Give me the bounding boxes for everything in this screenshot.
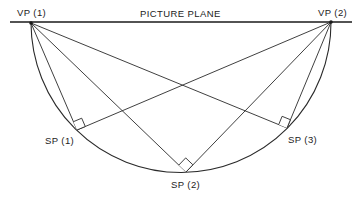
vanishing-point-1-dot — [29, 21, 33, 25]
vanishing-point-1-label: VP (1) — [17, 7, 46, 18]
vanishing-point-2-dot — [329, 20, 333, 24]
sight-line-vp2-sp2 — [186, 22, 331, 172]
sight-line-vp1-sp2 — [31, 23, 186, 172]
picture-plane-label: PICTURE PLANE — [140, 8, 221, 19]
station-point-2-label: SP (2) — [171, 179, 200, 190]
right-angle-marker-sp2 — [179, 158, 193, 172]
perspective-diagram: VP (1) PICTURE PLANE VP (2) SP (1) SP (2… — [0, 0, 358, 197]
station-point-1-label: SP (1) — [45, 135, 74, 146]
vanishing-point-2-label: VP (2) — [318, 7, 347, 18]
station-point-semicircle — [31, 22, 331, 173]
station-point-3-label: SP (3) — [288, 134, 317, 145]
